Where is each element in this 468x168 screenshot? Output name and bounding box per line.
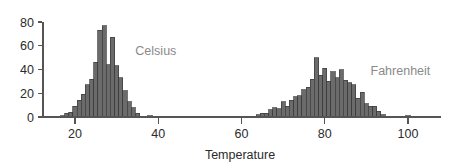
histogram-bar [314,58,318,117]
histogram-bar [339,70,343,118]
histogram-bar [281,102,285,117]
axis-tick-labels: 20406080100020406080 [20,16,418,142]
histogram-bar [273,108,277,118]
histogram-bar [343,80,347,117]
histogram-bar [298,96,302,117]
histogram-bar [327,81,331,117]
histogram-bar [356,98,360,117]
histogram-bar [373,106,377,117]
histogram-bar [123,91,127,117]
histogram-bar [277,109,281,117]
histogram-bar [306,87,310,117]
histogram-bar [106,65,110,117]
x-tick-label: 100 [398,127,419,141]
histogram-bar [98,30,102,117]
histogram-bar [319,75,323,117]
histogram-bar [364,104,368,117]
bars-layer [60,26,410,117]
y-tick-label: 60 [20,39,34,53]
histogram-bar [102,26,106,117]
series-annotations: CelsiusFahrenheit [135,44,430,78]
histogram-bar [94,62,98,117]
histogram-bar [360,92,364,117]
histogram-bar [85,85,89,117]
histogram-bar [335,78,339,117]
y-tick-label: 20 [20,87,34,101]
histogram-bar [127,102,131,117]
histogram-bar [69,112,73,117]
histogram-bar [302,90,306,117]
histogram-bar [289,100,293,117]
x-axis-title: Temperature [205,148,275,162]
histogram-bar [131,108,135,118]
y-tick-label: 40 [20,63,34,77]
x-tick-label: 20 [68,127,82,141]
histogram-bar [269,110,273,117]
histogram-bar [119,78,123,117]
histogram-bar [294,97,298,117]
y-tick-label: 0 [27,111,34,125]
histogram-bar [377,111,381,117]
histogram-bar [352,85,356,117]
histogram-bar [90,79,94,117]
histogram-bar [77,100,81,117]
series-annotation-celsius: Celsius [135,44,176,58]
histogram-bar [323,68,327,117]
histogram-bar [310,79,314,117]
chart-canvas: 20406080100020406080 CelsiusFahrenheit T… [0,0,468,168]
histogram-bar [368,106,372,117]
histogram-bar [285,106,289,117]
histogram-bar [348,83,352,117]
x-tick-label: 80 [318,127,332,141]
histogram-bar [81,94,85,117]
histogram-bar [115,66,119,117]
y-tick-label: 80 [20,16,34,30]
histogram-bar [110,37,114,117]
histogram-figure: 20406080100020406080 CelsiusFahrenheit T… [0,0,468,168]
histogram-bar [73,106,77,117]
x-tick-label: 60 [235,127,249,141]
series-annotation-fahrenheit: Fahrenheit [371,64,431,78]
histogram-bar [331,72,335,117]
x-tick-label: 40 [151,127,165,141]
